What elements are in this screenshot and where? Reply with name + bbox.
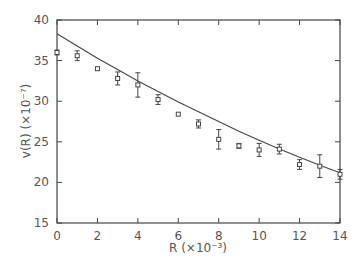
y-tick-label: 15 xyxy=(34,216,49,230)
data-point xyxy=(338,169,343,179)
x-tick-label: 10 xyxy=(252,229,267,243)
y-tick-label: 40 xyxy=(34,13,49,27)
x-tick-label: 0 xyxy=(53,229,61,243)
y-axis-ticks: 152025303540 xyxy=(34,13,340,230)
y-axis-label: v(R) (×10⁻⁷) xyxy=(19,84,33,158)
data-point xyxy=(55,50,60,55)
data-point xyxy=(156,95,161,105)
data-point xyxy=(236,143,241,148)
data-point xyxy=(317,155,322,178)
data-point xyxy=(176,112,180,116)
x-axis-ticks: 02468101214 xyxy=(53,20,347,243)
y-tick-label: 25 xyxy=(34,135,49,149)
y-tick-label: 20 xyxy=(34,175,49,189)
data-point xyxy=(95,67,99,71)
x-tick-label: 4 xyxy=(134,229,142,243)
y-tick-label: 30 xyxy=(34,94,49,108)
data-point xyxy=(277,144,282,154)
x-tick-label: 12 xyxy=(292,229,307,243)
data-point xyxy=(297,160,302,170)
data-point xyxy=(115,72,120,85)
data-point xyxy=(257,143,262,156)
chart: 02468101214 152025303540 R (×10⁻³) v(R) … xyxy=(0,0,359,263)
x-axis-label: R (×10⁻³) xyxy=(169,241,227,255)
fit-curve xyxy=(57,34,340,173)
data-point xyxy=(75,51,80,61)
data-point xyxy=(216,130,221,149)
data-point xyxy=(135,73,140,97)
x-tick-label: 14 xyxy=(332,229,347,243)
data-point xyxy=(196,120,201,128)
y-tick-label: 35 xyxy=(34,54,49,68)
x-tick-label: 2 xyxy=(94,229,102,243)
data-points xyxy=(55,50,343,179)
